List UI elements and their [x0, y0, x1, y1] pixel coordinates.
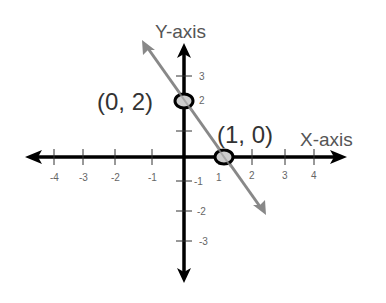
point-label-0-2: (0, 2) — [97, 88, 153, 115]
y-tick-label: 3 — [199, 71, 205, 82]
y-axis: 3 2 -1 -2 -3 — [176, 43, 208, 283]
x-tick-label: -1 — [148, 172, 157, 183]
y-tick-label: 2 — [199, 95, 205, 106]
coordinate-plane: -4 -3 -2 -1 1 2 3 4 3 2 -1 -2 -3 Y-axi — [0, 0, 386, 303]
x-tick-label: 3 — [282, 170, 288, 181]
y-tick-label: -2 — [197, 206, 206, 217]
x-tick-label: -3 — [79, 172, 88, 183]
x-tick-label: 2 — [249, 170, 255, 181]
x-axis-title: X-axis — [300, 129, 353, 150]
point-label-1-0: (1, 0) — [217, 121, 273, 148]
y-axis-title: Y-axis — [155, 21, 206, 42]
x-tick-label: 4 — [311, 170, 317, 181]
x-tick-label: -4 — [50, 172, 59, 183]
line-bottom-arrow-icon — [253, 200, 266, 215]
x-tick-label: -2 — [111, 172, 120, 183]
x-tick-label: 1 — [216, 172, 222, 183]
y-tick-label: -1 — [194, 176, 203, 187]
x-axis: -4 -3 -2 -1 1 2 3 4 — [25, 149, 347, 183]
y-tick-label: -3 — [199, 236, 208, 247]
line-top-arrow-icon — [142, 40, 155, 55]
